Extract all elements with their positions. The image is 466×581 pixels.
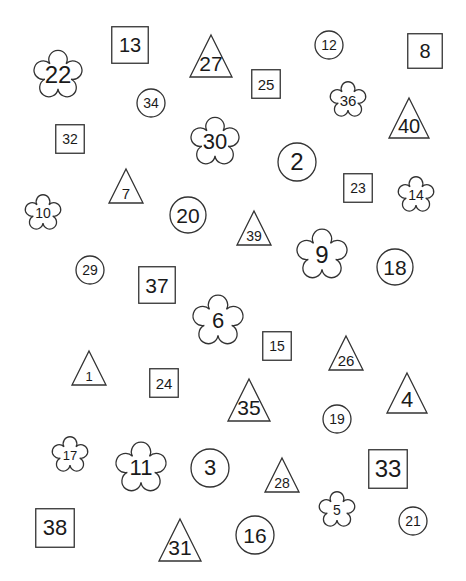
square-shape: 25 (251, 69, 281, 99)
shape-number-label: 27 (189, 34, 233, 78)
shape-number-label: 4 (386, 372, 428, 414)
shape-number-label: 20 (169, 196, 207, 234)
circle-shape: 16 (235, 515, 275, 555)
shape-number-label: 15 (262, 331, 292, 361)
shape-number-label: 37 (138, 266, 176, 304)
shape-number-label: 3 (190, 448, 230, 488)
shape-number-label: 25 (251, 69, 281, 99)
square-shape: 13 (111, 26, 149, 64)
flower-shape: 22 (35, 52, 81, 98)
shape-number-label: 24 (149, 368, 179, 398)
shape-number-label: 40 (388, 97, 430, 139)
shape-number-label: 28 (264, 457, 300, 493)
circle-shape: 21 (398, 506, 428, 536)
shape-number-label: 14 (399, 178, 433, 212)
shape-number-label: 10 (26, 196, 60, 230)
shape-number-label: 18 (376, 248, 414, 286)
shape-number-label: 39 (236, 210, 272, 246)
square-shape: 33 (368, 449, 408, 489)
shape-number-label: 8 (407, 33, 443, 69)
shape-number-label: 11 (117, 444, 165, 492)
shape-number-label: 12 (314, 30, 344, 60)
shape-number-label: 21 (398, 506, 428, 536)
triangle-shape: 39 (236, 210, 272, 246)
flower-shape: 9 (298, 231, 346, 279)
shape-number-label: 1 (71, 350, 107, 386)
circle-shape: 2 (277, 142, 317, 182)
square-shape: 38 (35, 508, 75, 548)
shape-number-label: 5 (320, 493, 354, 527)
circle-shape: 3 (190, 448, 230, 488)
shape-number-label: 34 (136, 88, 166, 118)
shape-number-label: 13 (111, 26, 149, 64)
shape-number-label: 6 (194, 297, 242, 345)
flower-shape: 10 (26, 196, 60, 230)
flower-shape: 17 (53, 438, 87, 472)
flower-shape: 6 (194, 297, 242, 345)
triangle-shape: 31 (158, 518, 202, 562)
circle-shape: 19 (322, 404, 352, 434)
square-shape: 23 (343, 173, 373, 203)
circle-shape: 34 (136, 88, 166, 118)
triangle-shape: 26 (328, 335, 364, 371)
shape-number-label: 23 (343, 173, 373, 203)
triangle-shape: 27 (189, 34, 233, 78)
shape-number-label: 29 (75, 255, 105, 285)
shape-number-label: 38 (35, 508, 75, 548)
shape-number-label: 9 (298, 231, 346, 279)
shape-number-label: 36 (331, 83, 365, 117)
shape-number-label: 26 (328, 335, 364, 371)
triangle-shape: 4 (386, 372, 428, 414)
shape-number-label: 19 (322, 404, 352, 434)
square-shape: 15 (262, 331, 292, 361)
triangle-shape: 28 (264, 457, 300, 493)
flower-shape: 36 (331, 83, 365, 117)
triangle-shape: 1 (71, 350, 107, 386)
triangle-shape: 40 (388, 97, 430, 139)
flower-shape: 11 (117, 444, 165, 492)
shape-number-label: 32 (55, 124, 85, 154)
shape-number-label: 33 (368, 449, 408, 489)
shape-number-label: 22 (35, 52, 81, 98)
shape-number-label: 17 (53, 438, 87, 472)
flower-shape: 5 (320, 493, 354, 527)
shape-number-label: 31 (158, 518, 202, 562)
circle-shape: 20 (169, 196, 207, 234)
flower-shape: 30 (192, 119, 238, 165)
shape-number-label: 2 (277, 142, 317, 182)
shape-number-label: 16 (235, 515, 275, 555)
shape-canvas: 2213271282534364032302231471020399182937… (0, 0, 466, 581)
square-shape: 37 (138, 266, 176, 304)
circle-shape: 18 (376, 248, 414, 286)
shape-number-label: 30 (192, 119, 238, 165)
circle-shape: 12 (314, 30, 344, 60)
shape-number-label: 7 (108, 168, 144, 204)
shape-number-label: 35 (227, 378, 271, 422)
circle-shape: 29 (75, 255, 105, 285)
square-shape: 32 (55, 124, 85, 154)
triangle-shape: 35 (227, 378, 271, 422)
square-shape: 8 (407, 33, 443, 69)
triangle-shape: 7 (108, 168, 144, 204)
flower-shape: 14 (399, 178, 433, 212)
square-shape: 24 (149, 368, 179, 398)
